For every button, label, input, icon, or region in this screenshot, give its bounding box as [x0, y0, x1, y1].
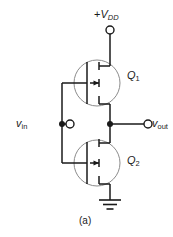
output-label: vout — [152, 118, 168, 129]
supply-terminal-circle — [106, 26, 114, 34]
output-label-subscript: out — [158, 122, 168, 131]
transistor-q2-label: Q2 — [127, 155, 140, 166]
q1-channel-arrow — [94, 80, 100, 85]
output-terminal-circle — [144, 120, 152, 128]
q2-label-subscript: 2 — [136, 159, 140, 168]
supply-label-symbol: V — [100, 8, 107, 20]
input-terminal-circle — [66, 120, 74, 128]
q2-channel-arrow — [94, 160, 100, 165]
input-label-subscript: in — [22, 122, 28, 131]
q1-label-symbol: Q — [127, 69, 136, 81]
input-label-symbol: v — [16, 117, 22, 129]
output-label-symbol: v — [152, 117, 158, 129]
transistor-q1-label: Q1 — [127, 70, 140, 81]
supply-label: +VDD — [94, 9, 119, 20]
q2-label-symbol: Q — [127, 154, 136, 166]
q1-label-subscript: 1 — [136, 74, 140, 83]
input-label: vin — [16, 118, 27, 129]
supply-label-subscript: DD — [108, 13, 119, 22]
input-node-dot — [59, 121, 65, 127]
figure-caption: (a) — [79, 216, 91, 226]
cmos-inverter-figure: +VDD vin vout Q1 Q2 (a) — [0, 0, 173, 237]
